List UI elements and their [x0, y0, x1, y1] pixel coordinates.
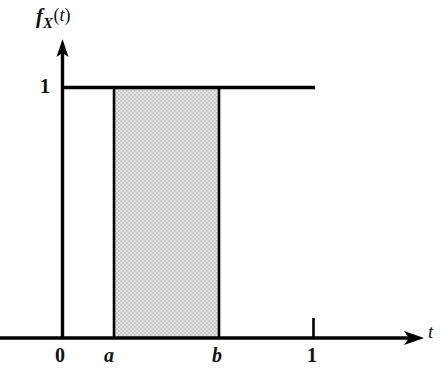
uniform-density-figure: fX(t) 1 0 a b 1 t [0, 0, 441, 377]
y-tick-label-1: 1 [40, 76, 50, 96]
y-axis-label: fX(t) [36, 6, 71, 31]
plot-canvas [0, 0, 441, 377]
y-axis-label-close-paren: ) [65, 5, 71, 25]
x-tick-label-0: 0 [55, 345, 65, 365]
x-tick-label-1: 1 [307, 345, 317, 365]
y-axis-label-function: f [36, 4, 43, 28]
shaded-region-rect [114, 88, 221, 338]
x-axis-label: t [428, 322, 433, 341]
x-tick-label-a: a [104, 345, 114, 365]
y-axis-label-subscript: X [43, 15, 54, 31]
x-tick-label-b: b [212, 345, 222, 365]
